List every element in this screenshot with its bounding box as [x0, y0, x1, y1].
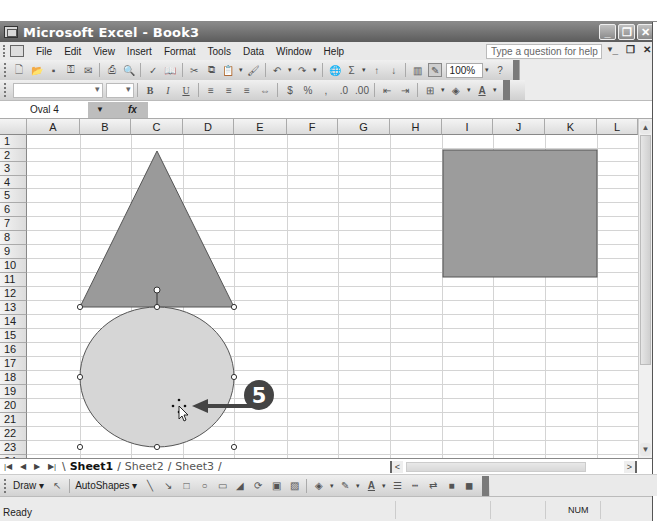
menu-window[interactable]: Window [270, 46, 318, 57]
italic-button[interactable]: I [161, 83, 176, 97]
oval-icon[interactable]: ○ [197, 479, 212, 493]
select-objects-icon[interactable]: ↖ [50, 479, 65, 493]
permission-icon[interactable]: ⚿ [64, 63, 78, 77]
excel-app-icon[interactable] [4, 26, 18, 38]
borders-icon[interactable]: ⊞ [423, 83, 438, 97]
row-header-15[interactable]: 15 [0, 329, 27, 343]
column-header-b[interactable]: B [80, 119, 131, 135]
zoom-dropdown-icon[interactable]: ▾ [485, 66, 489, 74]
draw-menu-button[interactable]: Draw ▾ [13, 480, 44, 491]
selection-handles[interactable] [77, 304, 236, 449]
email-icon[interactable]: ✉ [81, 63, 95, 77]
row-header-4[interactable]: 4 [0, 176, 27, 189]
toolbar-options-icon[interactable] [503, 80, 510, 100]
paste-icon[interactable]: 📋 [221, 63, 235, 77]
research-icon[interactable]: 📖 [163, 63, 177, 77]
tab-sheet2[interactable]: Sheet2 [121, 459, 168, 475]
scroll-up-icon[interactable]: ▲ [640, 121, 651, 134]
row-header-5[interactable]: 5 [0, 189, 27, 203]
arrow-style-icon[interactable]: ⇄ [426, 479, 441, 493]
percent-icon[interactable]: % [301, 83, 316, 97]
print-preview-icon[interactable]: 🔍 [122, 63, 136, 77]
vertical-scrollbar[interactable]: ▲ ▼ [638, 119, 652, 458]
row-header-1[interactable]: 1 [0, 135, 27, 149]
toolbar-grip[interactable] [4, 63, 8, 77]
scroll-down-icon[interactable]: ▼ [640, 443, 651, 456]
menu-help[interactable]: Help [318, 46, 351, 57]
formula-input[interactable] [148, 102, 657, 118]
hyperlink-icon[interactable]: 🌐 [327, 63, 341, 77]
center-icon[interactable]: ≡ [222, 83, 237, 97]
toolbar-options-icon[interactable] [513, 60, 520, 80]
help-search-input[interactable]: Type a question for help [486, 44, 602, 59]
print-icon[interactable]: ⎙ [105, 63, 119, 77]
row-header-17[interactable]: 17 [0, 357, 27, 371]
align-right-icon[interactable]: ≡ [240, 83, 255, 97]
help-icon[interactable]: ? [493, 63, 507, 77]
toolbar-grip[interactable] [4, 479, 8, 493]
column-header-d[interactable]: D [183, 119, 234, 135]
zoom-select[interactable]: 100% [446, 63, 484, 78]
undo-icon[interactable]: ↶ [270, 63, 284, 77]
row-header-19[interactable]: 19 [0, 385, 27, 399]
workbook-control-icon[interactable] [10, 45, 24, 57]
menu-format[interactable]: Format [158, 46, 202, 57]
font-name-select[interactable] [13, 83, 103, 98]
menu-view[interactable]: View [87, 46, 121, 57]
wordart-icon[interactable]: ◢ [233, 479, 248, 493]
format-painter-icon[interactable]: 🖌 [246, 63, 260, 77]
sort-descending-icon[interactable]: ↓ [387, 63, 401, 77]
last-sheet-icon[interactable]: ▶| [48, 462, 56, 471]
arrow-icon[interactable]: ↘ [161, 479, 176, 493]
font-color-icon[interactable]: A [475, 83, 490, 97]
menu-edit[interactable]: Edit [58, 46, 87, 57]
text-box-icon[interactable]: ▭ [215, 479, 230, 493]
scroll-right-icon[interactable]: > [624, 461, 637, 473]
row-header-13[interactable]: 13 [0, 301, 27, 315]
rectangle-icon[interactable]: □ [179, 479, 194, 493]
menu-file[interactable]: File [30, 46, 58, 57]
worksheet-grid[interactable]: A B C D E F G H I J K L 1 2 3 4 5 6 7 8 … [0, 119, 652, 458]
insert-function-icon[interactable]: fx [128, 102, 148, 118]
column-header-f[interactable]: F [287, 119, 338, 135]
column-header-c[interactable]: C [131, 119, 183, 135]
sort-ascending-icon[interactable]: ↑ [370, 63, 384, 77]
row-header-9[interactable]: 9 [0, 245, 27, 259]
autosum-icon[interactable]: Σ [345, 63, 359, 77]
new-icon[interactable]: 🗋 [12, 63, 26, 77]
column-header-e[interactable]: E [234, 119, 287, 135]
picture-icon[interactable]: ▨ [287, 479, 302, 493]
copy-icon[interactable]: ⧉ [204, 63, 218, 77]
column-header-a[interactable]: A [27, 119, 80, 135]
row-header-21[interactable]: 21 [0, 413, 27, 427]
clip-art-icon[interactable]: ▣ [269, 479, 284, 493]
line-color-icon[interactable]: ✎ [338, 479, 353, 493]
bold-button[interactable]: B [143, 83, 158, 97]
row-header-10[interactable]: 10 [0, 259, 27, 273]
menu-tools[interactable]: Tools [202, 46, 237, 57]
tab-sheet3[interactable]: Sheet3 [171, 459, 218, 475]
column-header-h[interactable]: H [390, 119, 442, 135]
cut-icon[interactable]: ✂ [187, 63, 201, 77]
line-icon[interactable]: ╲ [143, 479, 158, 493]
toolbar-grip[interactable] [4, 83, 8, 97]
column-header-l[interactable]: L [597, 119, 638, 135]
decrease-indent-icon[interactable]: ⇤ [380, 83, 395, 97]
row-header-14[interactable]: 14 [0, 315, 27, 329]
align-left-icon[interactable]: ≡ [204, 83, 219, 97]
increase-decimal-icon[interactable]: .0 [337, 83, 352, 97]
row-header-22[interactable]: 22 [0, 427, 27, 441]
row-header-12[interactable]: 12 [0, 287, 27, 301]
font-size-select[interactable] [106, 83, 134, 98]
column-header-k[interactable]: K [545, 119, 597, 135]
save-icon[interactable]: ▪ [47, 63, 61, 77]
increase-indent-icon[interactable]: ⇥ [398, 83, 413, 97]
fill-color-icon[interactable]: ◈ [449, 83, 464, 97]
line-style-icon[interactable]: ☰ [390, 479, 405, 493]
minimize-button[interactable]: _ [599, 24, 616, 40]
row-header-23[interactable]: 23 [0, 441, 27, 455]
column-header-i[interactable]: I [442, 119, 493, 135]
doc-minimize-icon[interactable]: _ [612, 44, 618, 55]
row-header-2[interactable]: 2 [0, 149, 27, 162]
horizontal-scrollbar[interactable]: < > [390, 460, 637, 474]
